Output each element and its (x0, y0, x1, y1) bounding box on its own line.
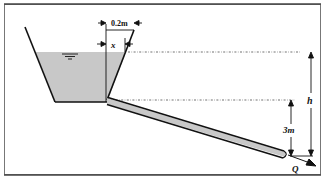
pipe (107, 98, 286, 159)
label-3m: 3m (282, 125, 295, 135)
label-x: x (110, 40, 116, 50)
label-flow-q: Q (292, 164, 299, 174)
label-top-width: 0.2m (111, 19, 128, 28)
water-body (35, 52, 126, 102)
diagram-canvas: 0.2m x h 3m Q (0, 0, 325, 180)
diagram-frame: 0.2m x h 3m Q (0, 0, 325, 180)
label-h: h (307, 95, 313, 106)
